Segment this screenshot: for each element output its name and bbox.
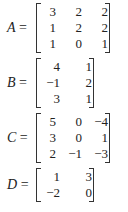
matrix-label: C =	[7, 131, 28, 145]
matrix-cell: 3	[72, 169, 92, 185]
matrix-cell: 3	[36, 130, 56, 146]
matrix-body: 322122101	[36, 3, 110, 53]
matrix-cell: −4	[88, 114, 108, 130]
matrix-cell: 2	[88, 20, 108, 36]
matrix-cell: 2	[72, 75, 92, 91]
matrix-cell: 2	[62, 4, 82, 20]
matrix-body: 41−1231	[36, 58, 94, 108]
matrix-cell: 2	[62, 20, 82, 36]
matrix-cell: 3	[40, 91, 60, 107]
matrix-cell: 1	[72, 91, 92, 107]
matrix-cell: −3	[88, 146, 108, 162]
matrix-cell: 1	[72, 59, 92, 75]
matrix-cell: 1	[88, 36, 108, 52]
matrix-cell: 0	[62, 130, 82, 146]
matrix-cell: 5	[36, 114, 56, 130]
matrix-body: 50−43012−1−3	[36, 113, 110, 163]
matrix-cell: −1	[62, 146, 82, 162]
matrix-cell: 0	[62, 114, 82, 130]
matrix-cell: 1	[88, 130, 108, 146]
matrix-cell: −2	[40, 185, 60, 201]
matrix-cell: 2	[36, 146, 56, 162]
matrix-label: A =	[7, 21, 27, 35]
matrix-cell: 0	[62, 36, 82, 52]
matrix-cell: 1	[40, 169, 60, 185]
matrix-cell: 2	[88, 4, 108, 20]
matrix-cell: 3	[36, 4, 56, 20]
matrix-cell: −1	[40, 75, 60, 91]
matrix-label: D =	[7, 178, 29, 192]
matrix-cell: 0	[72, 185, 92, 201]
matrix-cell: 1	[36, 36, 56, 52]
matrix-body: 13−20	[36, 168, 94, 202]
matrix-label: B =	[7, 76, 27, 90]
matrix-cell: 1	[36, 20, 56, 36]
matrix-cell: 4	[40, 59, 60, 75]
